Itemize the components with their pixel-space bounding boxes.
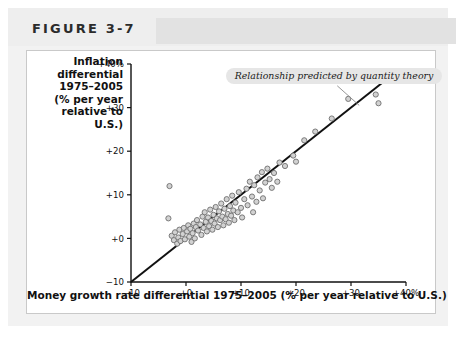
data-point	[236, 190, 241, 195]
data-point	[221, 223, 226, 228]
data-point	[259, 170, 264, 175]
data-point	[224, 197, 229, 202]
figure-root: FIGURE 3-7 Inflationdifferential1975–200…	[0, 0, 464, 344]
y-tick-label: +10	[106, 190, 124, 200]
data-point	[238, 205, 243, 210]
data-point	[199, 232, 204, 237]
chart-canvas: −10+0+10+20+30+40%−10+0+10+20+30+40%	[27, 51, 437, 315]
chart-card: Inflationdifferential1975–2005(% per yea…	[26, 50, 436, 314]
quantity-theory-reference-line	[131, 71, 398, 282]
data-point	[202, 210, 207, 215]
data-point	[210, 227, 215, 232]
x-axis-title: Money growth rate differential 1975–2005…	[27, 289, 437, 301]
data-point	[329, 116, 334, 121]
data-point	[252, 183, 257, 188]
data-point	[376, 101, 381, 106]
data-point	[269, 185, 274, 190]
y-tick-label: +20	[106, 146, 124, 156]
data-point	[254, 199, 259, 204]
reference-line-group	[131, 71, 398, 282]
data-point	[271, 170, 276, 175]
data-point	[247, 179, 252, 184]
data-point	[265, 166, 270, 171]
data-point	[233, 200, 238, 205]
data-point	[226, 220, 231, 225]
data-point	[240, 215, 245, 220]
data-point	[215, 224, 220, 229]
y-tick-label: +40%	[98, 59, 124, 69]
data-point	[263, 180, 268, 185]
annotation-leader-line	[337, 86, 359, 106]
figure-header-band: FIGURE 3-7	[8, 8, 448, 46]
data-point	[291, 153, 296, 158]
data-point	[293, 159, 298, 164]
data-point	[230, 193, 235, 198]
data-point	[313, 129, 318, 134]
data-point	[166, 216, 171, 221]
data-point	[192, 236, 197, 241]
figure-title: FIGURE 3-7	[32, 21, 136, 36]
data-point	[190, 231, 195, 236]
data-point	[302, 138, 307, 143]
y-tick-label: −10	[106, 277, 124, 287]
callout-leader-group	[337, 86, 359, 106]
y-tick-label: +0	[111, 234, 124, 244]
data-point	[249, 194, 254, 199]
data-point	[242, 197, 247, 202]
data-point	[267, 177, 272, 182]
data-point	[275, 179, 280, 184]
data-point	[260, 196, 265, 201]
figure-header-accent-block	[156, 18, 456, 44]
data-point	[255, 175, 260, 180]
data-point	[373, 92, 378, 97]
data-point	[277, 160, 282, 165]
scatter-plot-svg: −10+0+10+20+30+40%−10+0+10+20+30+40%	[27, 51, 437, 315]
data-point	[245, 203, 250, 208]
data-point	[208, 207, 213, 212]
data-point	[257, 188, 262, 193]
y-tick-label: +30	[106, 103, 124, 113]
data-point	[251, 210, 256, 215]
data-point	[244, 186, 249, 191]
data-point	[204, 229, 209, 234]
data-point	[282, 163, 287, 168]
data-point	[219, 201, 224, 206]
data-point	[232, 217, 237, 222]
data-point	[167, 183, 172, 188]
data-point	[216, 209, 221, 214]
data-point	[222, 206, 227, 211]
quantity-theory-annotation: Relationship predicted by quantity theor…	[226, 68, 443, 84]
